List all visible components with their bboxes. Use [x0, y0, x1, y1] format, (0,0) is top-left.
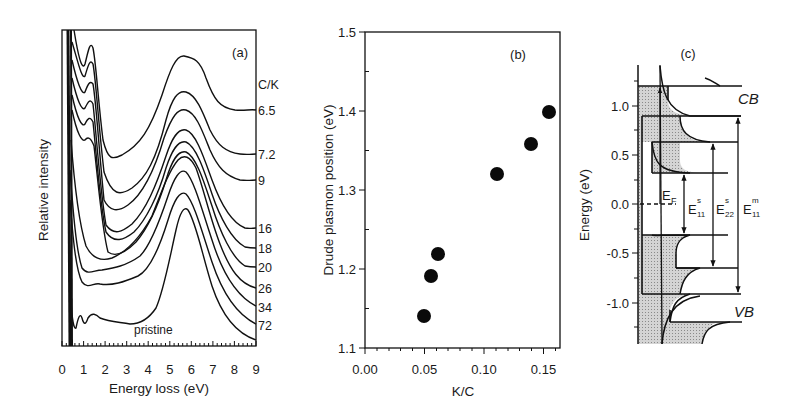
svg-text:E: E [662, 188, 671, 203]
xtick-label: 0 [58, 362, 65, 377]
panel-c-ylabel: Energy (eV) [577, 169, 592, 241]
panel-a: 0 1 2 3 4 5 6 7 8 9 Energy loss (eV) Rel… [36, 30, 280, 396]
panel-c-tag: (c) [680, 46, 695, 61]
panel-a-xtick-labels: 0 1 2 3 4 5 6 7 8 9 [58, 362, 259, 377]
panel-a-spectra [68, 30, 256, 346]
svg-text:m: m [752, 196, 759, 205]
panel-b-xlabel: K/C [452, 384, 475, 399]
panel-a-legend: C/K 6.5 7.2 9 16 18 20 26 34 72 [258, 78, 280, 333]
legend-label: 18 [258, 242, 272, 256]
spectrum-6.5 [74, 30, 256, 158]
vb-label: VB [734, 303, 754, 320]
ytick-label: 1.2 [338, 262, 356, 277]
data-point [490, 167, 504, 181]
e11s-label: E s 11 [688, 196, 706, 219]
ef-label: E F [662, 188, 677, 206]
panel-a-ylabel: Relative intensity [36, 139, 51, 241]
ytick-label: 1.0 [611, 99, 629, 114]
ytick-label: -1.0 [607, 296, 629, 311]
xtick-label: 0.00 [352, 362, 377, 377]
legend-label: 9 [258, 174, 265, 188]
svg-text:s: s [725, 196, 729, 205]
legend-label: 34 [258, 301, 272, 315]
xtick-label: 5 [166, 362, 173, 377]
ytick-label: 0.5 [611, 148, 629, 163]
xtick-label: 1 [80, 362, 87, 377]
xtick-label: 8 [231, 362, 238, 377]
xtick-label: 9 [252, 362, 259, 377]
panel-c: 1.0 0.5 0.0 -0.5 -1.0 Energy (eV) (c) [577, 46, 761, 344]
svg-text:E: E [688, 202, 697, 217]
xtick-label: 2 [101, 362, 108, 377]
xtick-label: 0.05 [412, 362, 437, 377]
xtick-label: 4 [145, 362, 152, 377]
panel-a-xlabel: Energy loss (eV) [109, 381, 209, 396]
svg-text:11: 11 [697, 210, 706, 219]
data-point [431, 247, 445, 261]
svg-text:E: E [743, 202, 752, 217]
e22s-label: E s 22 [716, 196, 734, 219]
panel-b-frame [365, 32, 560, 348]
svg-text:22: 22 [725, 210, 734, 219]
svg-text:s: s [697, 196, 701, 205]
panel-b-points [417, 105, 556, 323]
data-point [542, 105, 556, 119]
cb-label: CB [738, 90, 759, 107]
legend-label: 16 [258, 222, 272, 236]
xtick-label: 0.15 [531, 362, 556, 377]
panel-b-xtick-labels: 0.00 0.05 0.10 0.15 [352, 362, 556, 377]
panel-c-yticks [632, 81, 638, 327]
panel-b: 1.5 1.4 1.3 1.2 1.1 0.00 0.05 0.10 0.15 … [321, 25, 560, 399]
panel-c-shading [638, 86, 720, 344]
xtick-label: 3 [123, 362, 130, 377]
panel-b-xticks [365, 348, 556, 354]
pristine-label: pristine [134, 323, 173, 337]
legend-label: 6.5 [258, 104, 275, 118]
svg-text:E: E [716, 202, 725, 217]
data-point [524, 137, 538, 151]
panel-b-yticks [359, 32, 369, 348]
ytick-label: 1.5 [338, 25, 356, 40]
legend-label: 26 [258, 282, 272, 296]
svg-text:F: F [671, 196, 677, 206]
e11m-label: E m 11 [743, 196, 761, 219]
panel-a-xticks [62, 341, 256, 346]
panel-b-ytick-labels: 1.5 1.4 1.3 1.2 1.1 [338, 25, 356, 356]
ytick-label: 1.4 [338, 104, 356, 119]
ytick-label: 0.0 [611, 197, 629, 212]
xtick-label: 7 [209, 362, 216, 377]
ytick-label: 1.3 [338, 183, 356, 198]
data-point [417, 309, 431, 323]
legend-title: C/K [258, 78, 280, 92]
legend-label: 72 [258, 319, 272, 333]
xtick-label: 0.10 [471, 362, 496, 377]
ytick-label: 1.1 [338, 341, 356, 356]
legend-label: 7.2 [258, 148, 275, 162]
ytick-label: -0.5 [607, 246, 629, 261]
legend-label: 20 [258, 261, 272, 275]
panel-b-ylabel: Drude plasmon position (eV) [321, 104, 336, 275]
panel-b-tag: (b) [510, 47, 526, 62]
data-point [424, 269, 438, 283]
figure: 0 1 2 3 4 5 6 7 8 9 Energy loss (eV) Rel… [0, 0, 797, 420]
xtick-label: 6 [188, 362, 195, 377]
svg-text:11: 11 [752, 210, 761, 219]
panel-a-tag: (a) [232, 45, 248, 60]
panel-c-ytick-labels: 1.0 0.5 0.0 -0.5 -1.0 [607, 99, 629, 311]
